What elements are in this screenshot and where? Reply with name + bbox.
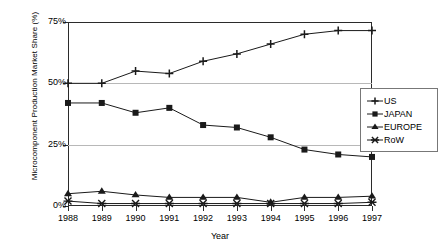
legend-label: JAPAN	[384, 109, 412, 119]
triangle-marker	[300, 193, 308, 199]
plus-marker	[334, 27, 342, 35]
square-marker	[200, 122, 206, 128]
square-marker	[234, 124, 240, 130]
legend-label: EUROPE	[384, 122, 422, 132]
plus-marker	[132, 67, 140, 75]
series-us	[64, 27, 376, 88]
square-marker	[372, 111, 377, 116]
series-japan	[65, 100, 375, 160]
square-marker	[99, 100, 105, 106]
plus-marker	[165, 70, 173, 78]
x-marker	[97, 200, 106, 207]
square-icon	[366, 108, 384, 120]
x-icon	[366, 134, 384, 146]
triangle-marker	[199, 193, 207, 199]
triangle-marker	[98, 187, 106, 193]
series-line	[68, 103, 372, 157]
plus-marker	[233, 50, 241, 58]
plus-icon	[366, 95, 384, 107]
x-axis-title: Year	[68, 231, 372, 241]
plus-marker	[368, 27, 376, 35]
square-marker	[369, 154, 375, 160]
plus-marker	[64, 79, 72, 87]
series-line	[68, 31, 372, 84]
x-marker	[368, 199, 377, 206]
series-line	[68, 191, 372, 202]
chart-container: Microcomponent Production Market Share (…	[0, 0, 446, 251]
triangle-marker	[233, 193, 241, 199]
plus-marker	[98, 79, 106, 87]
square-marker	[268, 134, 274, 140]
triangle-marker	[165, 193, 173, 199]
series-line	[68, 201, 372, 203]
legend-item-japan[interactable]: JAPAN	[366, 107, 433, 120]
chart-legend: USJAPANEUROPERoW	[360, 88, 438, 152]
square-marker	[133, 110, 139, 116]
triangle-marker	[334, 193, 342, 199]
legend-item-row[interactable]: RoW	[366, 133, 433, 146]
square-marker	[301, 147, 307, 153]
x-marker	[131, 200, 140, 207]
series-row	[64, 198, 377, 207]
legend-label: RoW	[384, 135, 404, 145]
triangle-marker	[64, 190, 72, 196]
square-marker	[65, 100, 71, 106]
legend-item-europe[interactable]: EUROPE	[366, 120, 433, 133]
plus-marker	[371, 97, 378, 104]
plus-marker	[199, 57, 207, 65]
x-marker	[165, 200, 174, 207]
x-marker	[371, 136, 379, 142]
x-marker	[232, 200, 241, 207]
triangle-marker	[371, 123, 378, 129]
x-marker	[334, 200, 343, 207]
x-marker	[64, 198, 73, 205]
square-marker	[335, 151, 341, 157]
legend-label: US	[384, 96, 397, 106]
plus-marker	[267, 40, 275, 48]
square-marker	[166, 105, 172, 111]
x-marker	[300, 200, 309, 207]
triangle-icon	[366, 121, 384, 133]
triangle-marker	[368, 192, 376, 198]
legend-item-us[interactable]: US	[366, 94, 433, 107]
series-europe	[64, 187, 376, 204]
plus-marker	[300, 30, 308, 38]
x-marker	[199, 200, 208, 207]
